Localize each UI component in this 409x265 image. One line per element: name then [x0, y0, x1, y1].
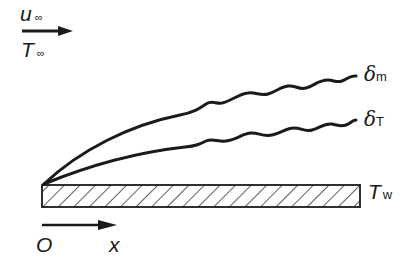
delta-symbol: δ	[364, 107, 376, 131]
flat-plate	[42, 185, 360, 207]
freestream-velocity-label: u∞	[20, 2, 43, 26]
delta-subscript-t: T	[376, 114, 384, 129]
thermal-thickness-label: δT	[364, 107, 384, 131]
momentum-thickness-label: δm	[364, 62, 387, 86]
wall-temp-subscript: w	[383, 187, 392, 202]
x-axis-arrow-icon	[42, 220, 117, 230]
freestream-arrow-icon	[22, 26, 73, 36]
wall-temp-symbol: T	[368, 180, 381, 203]
temperature-subscript: ∞	[37, 47, 45, 59]
x-axis-label: x	[109, 233, 120, 257]
velocity-symbol: u	[20, 2, 32, 25]
wall-temperature-label: Tw	[368, 180, 392, 204]
thermal-boundary-layer-curve	[44, 120, 356, 184]
freestream-temperature-label: T∞	[21, 38, 45, 62]
origin-label: O	[36, 233, 52, 257]
delta-symbol: δ	[364, 62, 376, 86]
delta-subscript-m: m	[376, 69, 387, 84]
temperature-symbol: T	[21, 38, 34, 61]
diagram-canvas	[0, 0, 409, 265]
velocity-subscript: ∞	[35, 11, 43, 23]
